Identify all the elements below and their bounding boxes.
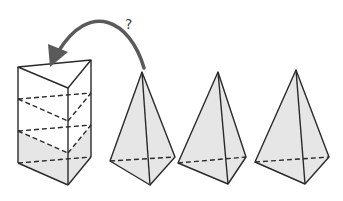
pyramid-1 [110,72,175,185]
triangular-prism [18,60,91,185]
prism-pyramid-diagram: ? [0,0,343,201]
pyramid-3 [255,70,329,184]
pyramid-2 [178,72,246,184]
question-mark: ? [125,16,132,32]
